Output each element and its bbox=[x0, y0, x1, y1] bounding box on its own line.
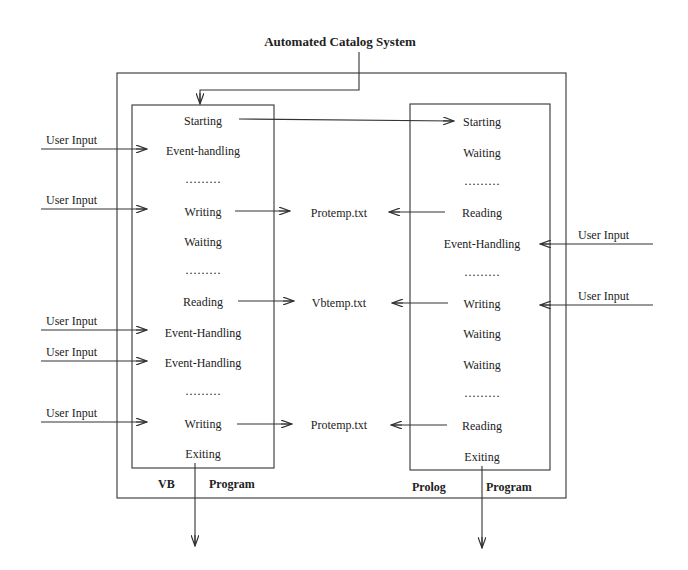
prolog-state: Event-Handling bbox=[444, 237, 521, 251]
prolog-state: Reading bbox=[462, 206, 502, 220]
diagram-title: Automated Catalog System bbox=[264, 34, 416, 49]
catalog-system-diagram: Automated Catalog System VB Program Star… bbox=[0, 0, 688, 570]
prolog-ellipsis: ········· bbox=[464, 268, 500, 282]
prolog-state: Writing bbox=[464, 297, 501, 311]
prolog-state: Waiting bbox=[463, 146, 501, 160]
prolog-program-label: Program bbox=[486, 480, 532, 494]
starting-sync-arrow bbox=[239, 119, 454, 121]
prolog-ellipsis: ········· bbox=[464, 177, 500, 191]
vb-state: Starting bbox=[184, 114, 222, 128]
vb-ellipsis: ········· bbox=[185, 175, 221, 189]
vb-state: Event-Handling bbox=[165, 326, 242, 340]
vb-state: Writing bbox=[185, 417, 222, 431]
vb-program-label: Program bbox=[209, 477, 255, 491]
vb-ellipsis: ········· bbox=[185, 266, 221, 280]
prolog-state: Waiting bbox=[463, 327, 501, 341]
prolog-program: Prolog Program StartingWaiting·········R… bbox=[410, 104, 550, 494]
user-input-label: User Input bbox=[46, 345, 98, 359]
user-input-label: User Input bbox=[578, 289, 630, 303]
prolog-state: Reading bbox=[462, 419, 502, 433]
vb-state: Waiting bbox=[184, 235, 222, 249]
vb-state: Reading bbox=[183, 295, 223, 309]
prolog-state: Exiting bbox=[464, 450, 499, 464]
prolog-state: Waiting bbox=[463, 358, 501, 372]
vb-program: VB Program StartingEvent-handling·······… bbox=[132, 105, 274, 491]
user-input-label: User Input bbox=[578, 228, 630, 242]
user-input-label: User Input bbox=[46, 133, 98, 147]
temp-file-label: Vbtemp.txt bbox=[312, 296, 367, 310]
temp-file-label: Protemp.txt bbox=[311, 418, 368, 432]
prolog-ellipsis: ········· bbox=[464, 389, 500, 403]
vb-label: VB bbox=[158, 477, 175, 491]
temp-file-label: Protemp.txt bbox=[311, 206, 368, 220]
vb-program-box bbox=[132, 105, 274, 468]
system-boundary-box bbox=[117, 73, 566, 498]
prolog-label: Prolog bbox=[412, 480, 446, 494]
vb-ellipsis: ········· bbox=[185, 387, 221, 401]
prolog-state: Starting bbox=[463, 115, 501, 129]
vb-state: Event-Handling bbox=[165, 356, 242, 370]
vb-state: Writing bbox=[185, 205, 222, 219]
vb-state: Event-handling bbox=[166, 144, 240, 158]
user-input-label: User Input bbox=[46, 314, 98, 328]
user-input-label: User Input bbox=[46, 406, 98, 420]
user-input-label: User Input bbox=[46, 193, 98, 207]
start-connector-arrow bbox=[200, 52, 359, 104]
vb-state: Exiting bbox=[185, 447, 220, 461]
